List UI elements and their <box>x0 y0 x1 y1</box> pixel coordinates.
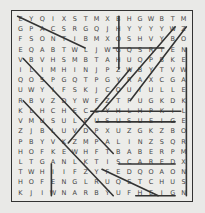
grid-letter[interactable]: K <box>48 147 59 157</box>
grid-letter[interactable]: P <box>167 147 178 157</box>
grid-letter[interactable]: G <box>113 45 124 55</box>
grid-letter[interactable]: J <box>102 24 113 34</box>
grid-letter[interactable]: I <box>156 188 167 198</box>
grid-letter[interactable]: G <box>135 14 146 24</box>
grid-letter[interactable]: B <box>26 137 37 147</box>
grid-letter[interactable]: L <box>15 157 26 167</box>
grid-letter[interactable]: S <box>69 86 80 96</box>
grid-letter[interactable]: I <box>124 137 135 147</box>
grid-letter[interactable]: Q <box>113 178 124 188</box>
grid-letter[interactable]: D <box>167 96 178 106</box>
grid-letter[interactable]: O <box>26 147 37 157</box>
grid-letter[interactable]: C <box>48 24 59 34</box>
grid-letter[interactable]: M <box>48 65 59 75</box>
grid-letter[interactable]: U <box>102 178 113 188</box>
grid-letter[interactable]: Y <box>156 34 167 44</box>
grid-letter[interactable]: I <box>69 65 80 75</box>
grid-letter[interactable]: U <box>113 116 124 126</box>
grid-letter[interactable]: C <box>156 75 167 85</box>
grid-letter[interactable]: L <box>113 137 124 147</box>
grid-letter[interactable]: X <box>59 14 70 24</box>
grid-letter[interactable]: W <box>167 24 178 34</box>
grid-letter[interactable]: P <box>91 126 102 136</box>
grid-letter[interactable]: W <box>48 188 59 198</box>
grid-letter[interactable]: M <box>80 137 91 147</box>
grid-letter[interactable]: A <box>102 137 113 147</box>
grid-letter[interactable]: W <box>178 65 189 75</box>
grid-letter[interactable]: D <box>167 157 178 167</box>
grid-letter[interactable]: N <box>178 45 189 55</box>
grid-letter[interactable]: J <box>26 126 37 136</box>
grid-letter[interactable]: G <box>102 75 113 85</box>
grid-letter[interactable]: F <box>102 167 113 177</box>
grid-letter[interactable]: G <box>37 157 48 167</box>
grid-letter[interactable]: T <box>156 65 167 75</box>
grid-letter[interactable]: G <box>69 178 80 188</box>
grid-letter[interactable]: Y <box>124 24 135 34</box>
grid-letter[interactable]: T <box>167 14 178 24</box>
grid-letter[interactable]: F <box>91 96 102 106</box>
grid-letter[interactable]: C <box>102 86 113 96</box>
grid-letter[interactable]: V <box>37 55 48 65</box>
grid-letter[interactable]: A <box>156 167 167 177</box>
grid-letter[interactable]: N <box>178 188 189 198</box>
grid-letter[interactable]: F <box>124 96 135 106</box>
grid-letter[interactable]: C <box>146 178 157 188</box>
grid-letter[interactable]: H <box>135 188 146 198</box>
grid-letter[interactable]: B <box>167 34 178 44</box>
grid-letter[interactable]: Z <box>178 24 189 34</box>
grid-letter[interactable]: L <box>26 106 37 116</box>
grid-letter[interactable]: J <box>91 86 102 96</box>
grid-letter[interactable]: O <box>37 34 48 44</box>
grid-letter[interactable]: X <box>102 34 113 44</box>
grid-letter[interactable]: L <box>48 126 59 136</box>
grid-letter[interactable]: B <box>26 55 37 65</box>
grid-letter[interactable]: T <box>113 96 124 106</box>
grid-letter[interactable]: T <box>102 147 113 157</box>
grid-letter[interactable]: N <box>178 167 189 177</box>
grid-letter[interactable]: F <box>37 178 48 188</box>
grid-letter[interactable]: S <box>102 116 113 126</box>
grid-letter[interactable]: N <box>80 65 91 75</box>
grid-letter[interactable]: K <box>59 137 70 147</box>
grid-letter[interactable]: B <box>156 14 167 24</box>
grid-letter[interactable]: K <box>156 106 167 116</box>
grid-letter[interactable]: U <box>167 178 178 188</box>
grid-letter[interactable]: G <box>15 24 26 34</box>
grid-letter[interactable]: E <box>178 116 189 126</box>
grid-letter[interactable]: L <box>80 178 91 188</box>
grid-letter[interactable]: B <box>135 147 146 157</box>
grid-letter[interactable]: F <box>69 167 80 177</box>
grid-letter[interactable]: I <box>135 86 146 96</box>
grid-letter[interactable]: U <box>135 96 146 106</box>
grid-letter[interactable]: O <box>26 178 37 188</box>
grid-letter[interactable]: U <box>59 116 70 126</box>
grid-letter[interactable]: E <box>178 55 189 65</box>
grid-letter[interactable]: I <box>167 106 178 116</box>
grid-letter[interactable]: A <box>178 75 189 85</box>
grid-letter[interactable]: X <box>102 126 113 136</box>
grid-letter[interactable]: E <box>146 188 157 198</box>
grid-letter[interactable]: R <box>146 157 157 167</box>
grid-letter[interactable]: S <box>156 137 167 147</box>
grid-letter[interactable]: I <box>37 65 48 75</box>
grid-letter[interactable]: U <box>135 116 146 126</box>
grid-letter[interactable]: O <box>113 86 124 96</box>
grid-letter[interactable]: P <box>146 55 157 65</box>
grid-letter[interactable]: G <box>59 75 70 85</box>
grid-letter[interactable]: S <box>59 55 70 65</box>
grid-letter[interactable]: I <box>156 116 167 126</box>
grid-letter[interactable]: T <box>80 75 91 85</box>
grid-letter[interactable]: N <box>48 34 59 44</box>
grid-letter[interactable]: Y <box>37 86 48 96</box>
grid-letter[interactable]: P <box>146 106 157 116</box>
grid-letter[interactable]: Z <box>15 126 26 136</box>
grid-letter[interactable]: S <box>37 75 48 85</box>
grid-letter[interactable]: W <box>26 167 37 177</box>
grid-letter[interactable]: Z <box>48 96 59 106</box>
grid-letter[interactable]: I <box>15 65 26 75</box>
grid-letter[interactable]: T <box>15 167 26 177</box>
grid-letter[interactable]: Y <box>146 24 157 34</box>
grid-letter[interactable]: C <box>91 106 102 116</box>
grid-letter[interactable]: Q <box>91 24 102 34</box>
